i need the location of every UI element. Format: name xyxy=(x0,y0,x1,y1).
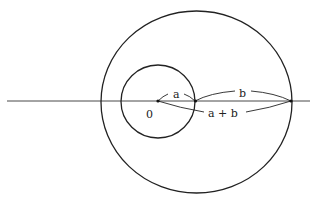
origin-point xyxy=(156,99,159,102)
diagram-canvas: 0 a b a + b xyxy=(0,0,314,199)
label-b: b xyxy=(239,87,246,100)
label-a-plus-b: a + b xyxy=(208,107,238,120)
arc-a-plus-b-right xyxy=(246,101,291,112)
arc-a-plus-b-left xyxy=(158,101,204,112)
label-a: a xyxy=(173,88,180,101)
arc-a-right xyxy=(184,94,195,101)
arc-b-right xyxy=(251,91,291,101)
point-a xyxy=(194,99,197,102)
arc-a-left xyxy=(158,94,168,101)
arc-b-left xyxy=(195,91,235,101)
label-origin: 0 xyxy=(146,108,153,121)
point-a-plus-b xyxy=(289,99,292,102)
